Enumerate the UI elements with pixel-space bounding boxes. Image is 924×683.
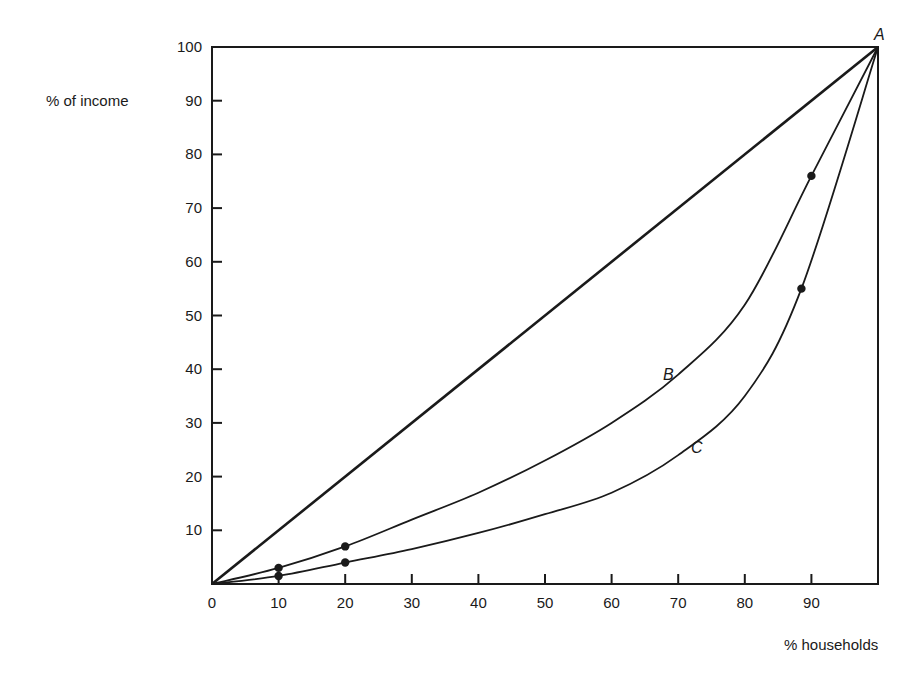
y-tick-label: 10	[185, 521, 202, 538]
y-tick-label: 20	[185, 468, 202, 485]
data-point-marker	[807, 172, 815, 180]
data-point-marker	[797, 284, 805, 292]
y-tick-label: 90	[185, 92, 202, 109]
x-axis-ticks: 0102030405060708090	[208, 574, 820, 611]
data-point-marker	[341, 542, 349, 550]
x-tick-label: 30	[403, 594, 420, 611]
point-a-label: A	[873, 26, 885, 43]
x-tick-label: 40	[470, 594, 487, 611]
x-tick-label: 10	[270, 594, 287, 611]
x-tick-label: 50	[537, 594, 554, 611]
y-axis-title: % of income	[46, 92, 129, 109]
marker-group	[274, 172, 815, 580]
data-point-marker	[274, 564, 282, 572]
x-tick-label: 0	[208, 594, 216, 611]
data-point-marker	[341, 558, 349, 566]
y-tick-label: 50	[185, 307, 202, 324]
x-tick-label: 90	[803, 594, 820, 611]
series-group	[212, 47, 878, 584]
x-tick-label: 60	[603, 594, 620, 611]
y-tick-label: 70	[185, 199, 202, 216]
curve-c-label: C	[691, 439, 703, 456]
x-tick-label: 70	[670, 594, 687, 611]
y-axis-ticks: 102030405060708090100	[177, 38, 222, 538]
y-tick-label: 30	[185, 414, 202, 431]
x-tick-label: 80	[736, 594, 753, 611]
y-tick-label: 80	[185, 145, 202, 162]
x-tick-label: 20	[337, 594, 354, 611]
data-point-marker	[274, 572, 282, 580]
y-tick-label: 100	[177, 38, 202, 55]
x-axis-title: % households	[784, 636, 878, 653]
equality-line	[212, 47, 878, 584]
curve-b-label: B	[663, 366, 674, 383]
y-tick-label: 60	[185, 253, 202, 270]
lorenz-chart: 102030405060708090100 010203040506070809…	[0, 0, 924, 683]
y-tick-label: 40	[185, 360, 202, 377]
